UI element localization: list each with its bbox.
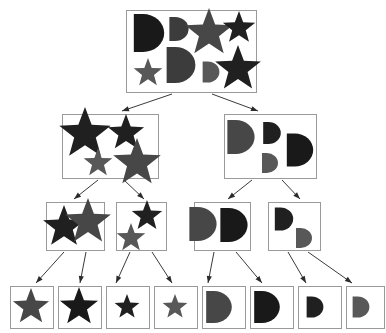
tree-edge [36,252,64,283]
tree-edge [122,94,172,111]
tree-edge [212,94,258,111]
node-box-layer [11,11,385,329]
tree-edge [74,180,98,199]
edge-arrowhead [228,193,235,199]
edge-arrowhead [345,277,352,283]
node-box-n-stars-small[interactable] [117,203,167,251]
edge-arrowhead [251,106,258,111]
tree-edge [124,180,144,199]
edge-arrowhead [79,276,84,283]
edge-arrowhead [166,276,172,283]
edge-arrowhead [74,193,81,199]
tree-edge [207,252,214,283]
tree-edge [282,180,300,199]
figure-canvas [0,0,386,333]
tree-edge [308,252,352,283]
tree-edge [236,252,262,283]
edge-arrowhead [300,276,306,283]
tree-edge [152,252,172,283]
edge-arrowhead [116,276,121,283]
tree-edge [79,252,86,283]
edge-arrowhead [122,106,129,111]
tree-edge [288,252,306,283]
hierarchy-tree [0,0,386,333]
edge-arrowhead [207,276,212,283]
tree-edge [116,252,130,283]
tree-edge [228,180,252,199]
